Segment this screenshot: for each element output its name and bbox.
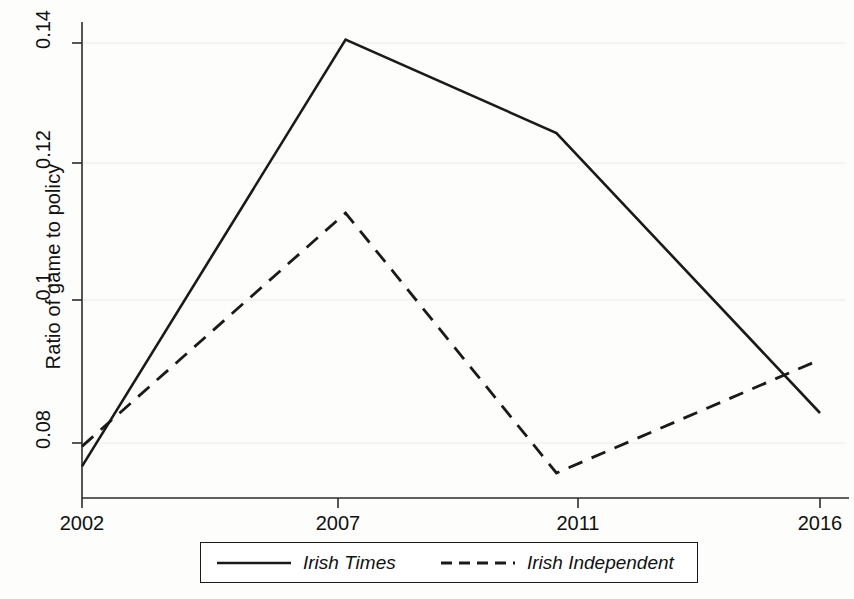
legend-entry-irish-independent: Irish Independent [439,543,674,582]
legend-label-irish-independent: Irish Independent [527,552,674,574]
gridlines [82,43,845,443]
legend-label-irish-times: Irish Times [303,552,396,574]
legend-swatch-solid [215,557,293,569]
chart-legend: Irish Times Irish Independent [200,542,698,583]
x-axis-ticks [82,498,820,508]
legend-swatch-dashed [439,557,517,569]
series-line-irish-times [82,40,820,467]
plot-area [0,0,854,599]
y-axis-ticks [72,43,82,443]
chart-figure: Ratio of game to policy 0.08 0.1 0.12 0.… [0,0,854,599]
legend-entry-irish-times: Irish Times [215,543,396,582]
series-line-irish-independent [82,213,820,473]
